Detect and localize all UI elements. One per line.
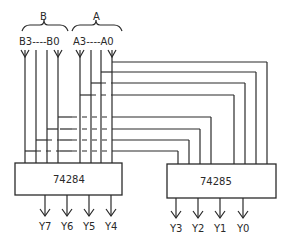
right-outputs (171, 198, 248, 218)
output-y1: Y1 (213, 223, 226, 234)
range-label-b: B3----B0 (19, 36, 60, 47)
range-label-a: A3----A0 (73, 36, 114, 47)
output-y0: Y0 (236, 223, 249, 234)
output-y7: Y7 (38, 221, 51, 232)
output-y4: Y4 (104, 221, 117, 232)
group-label-b: B (40, 11, 47, 22)
chip-label-left: 74284 (53, 174, 85, 185)
tap-horizontals (25, 62, 267, 151)
chip-label-right: 74285 (200, 176, 232, 187)
input-bus-verticals (25, 50, 112, 163)
left-outputs (40, 195, 116, 216)
output-y6: Y6 (60, 221, 73, 232)
input-arrows (21, 50, 116, 57)
output-y3: Y3 (169, 223, 182, 234)
multiplier-circuit-diagram: B A B3----B0 A3----A0 (0, 0, 292, 244)
group-label-a: A (93, 11, 100, 22)
right-chip-input-verticals (178, 62, 267, 164)
output-y2: Y2 (191, 223, 204, 234)
output-y5: Y5 (82, 221, 95, 232)
